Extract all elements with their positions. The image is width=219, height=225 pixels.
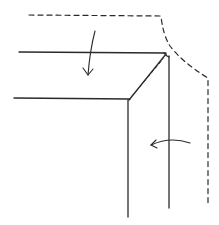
- top-fold-edge: [19, 52, 166, 53]
- unfolded-outline-dashed: [29, 15, 208, 205]
- miter-diagonal-dashed: [132, 59, 163, 96]
- mitered-corner-fold-diagram: [0, 0, 219, 225]
- inner-horizontal-edge: [14, 98, 130, 99]
- fold-left-arrow-icon: [151, 140, 190, 148]
